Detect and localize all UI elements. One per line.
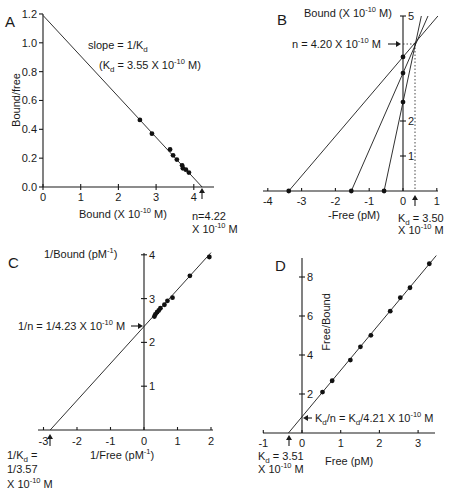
- panel-c-x-label: 1/Free (pM-1): [90, 447, 154, 461]
- x-tick-label: -3: [297, 195, 307, 207]
- data-point: [368, 333, 373, 338]
- y-tick-label: 1.2: [22, 8, 37, 20]
- figure: A 0.00.20.40.60.81.01.2 01234 Bound/free…: [0, 0, 452, 494]
- x-tick-label: -2: [72, 435, 82, 447]
- panel-d-ratio-annotation: Kd/n = Kd/4.21 X 10-10 M: [315, 410, 434, 427]
- panel-c-double-reciprocal: C 1234 -3-2-1012 1/Bound (pM-1) 1/Free (…: [7, 246, 214, 490]
- data-point: [170, 295, 175, 300]
- data-point: [398, 295, 403, 300]
- panel-b-kd-arrow-icon: [412, 195, 418, 206]
- x-tick-label: 3: [153, 191, 159, 203]
- data-point: [165, 298, 170, 303]
- data-point: [150, 131, 155, 136]
- y-tick-label: 3: [149, 293, 155, 305]
- x-tick-label: 1: [434, 195, 440, 207]
- data-point: [330, 378, 335, 383]
- panel-a-x-label: Bound (X 10-10 M): [79, 206, 167, 220]
- y-tick-label: 2: [408, 115, 414, 127]
- panel-d-kd-arrow-icon: [286, 435, 292, 446]
- y-tick-label: 0.2: [22, 152, 37, 164]
- panel-a-n-arrow-icon: [199, 188, 205, 199]
- data-point: [171, 153, 176, 158]
- panel-label-a: A: [5, 13, 15, 30]
- x-tick-label: -3: [39, 435, 49, 447]
- y-intercept-point: [401, 71, 406, 76]
- panel-a-y-ticks: 0.00.20.40.60.81.01.2: [22, 8, 43, 193]
- x-tick-label: 0: [141, 435, 147, 447]
- panel-a-y-label: Bound/free: [10, 73, 22, 127]
- x-tick-label: 2: [115, 191, 121, 203]
- data-point: [427, 261, 432, 266]
- y-tick-label: 8: [307, 271, 313, 283]
- panel-d-y-label: Free/Bound: [320, 293, 332, 350]
- data-point: [358, 344, 363, 349]
- x-tick-label: 0: [400, 195, 406, 207]
- data-point: [152, 314, 157, 319]
- x-tick-label: -1: [364, 195, 374, 207]
- panel-c-kd-units: X 10-10 M: [7, 476, 53, 490]
- x-tick-label: -1: [258, 437, 268, 449]
- panel-d-hanes-woolf: D 2468 -10123 Free/Bound Free (pM) Kd/n …: [258, 256, 436, 475]
- y-tick-label: 4: [149, 249, 155, 261]
- x-tick-label: 3: [415, 437, 421, 449]
- panel-a-kd-annotation: (Kd = 3.55 X 10-10 M): [99, 57, 201, 74]
- x-intercept-point: [349, 189, 354, 194]
- panel-c-kd-annotation: 1/Kd =: [7, 449, 37, 464]
- panel-d-kd-units: X 10-10 M: [258, 461, 304, 475]
- y-tick-label: 4: [307, 349, 313, 361]
- y-tick-label: 1: [149, 380, 155, 392]
- data-point: [388, 309, 393, 314]
- panel-b-direct-linear: B 125 -4-3-2-101 Bound (X 10-10 M) -Free…: [263, 5, 444, 236]
- x-tick-label: 4: [191, 191, 197, 203]
- data-point: [174, 157, 179, 162]
- data-point: [207, 255, 212, 260]
- data-point: [186, 170, 191, 175]
- panel-b-n-annotation: n = 4.20 X 10-10 M: [292, 36, 381, 50]
- panel-a-scatchard: A 0.00.20.40.60.81.01.2 01234 Bound/free…: [5, 8, 238, 235]
- x-tick-label: 2: [208, 435, 214, 447]
- panel-label-d: D: [275, 257, 286, 274]
- panel-c-fit-line: [50, 253, 211, 430]
- x-tick-label: 0: [40, 191, 46, 203]
- panel-c-n-arrow-icon: [131, 323, 143, 329]
- panel-b-y-label: Bound (X 10-10 M): [304, 5, 392, 19]
- panel-a-n-units: X 10-10 M: [192, 221, 238, 235]
- panel-c-n-annotation: 1/n = 1/4.23 X 10-10 M: [18, 318, 125, 332]
- data-point: [137, 118, 142, 123]
- y-intercept-point: [401, 55, 406, 60]
- data-point: [168, 147, 173, 152]
- data-point: [162, 302, 167, 307]
- panel-c-y-label: 1/Bound (pM-1): [44, 246, 117, 260]
- y-tick-label: 2: [149, 336, 155, 348]
- panel-d-x-label: Free (pM): [325, 455, 373, 467]
- x-tick-label: -2: [331, 195, 341, 207]
- data-point: [320, 390, 325, 395]
- y-tick-label: 0.6: [22, 94, 37, 106]
- panel-b-kd-units: X 10-10 M: [398, 222, 444, 236]
- x-tick-label: -1: [106, 435, 116, 447]
- x-tick-label: -4: [263, 195, 273, 207]
- data-point: [187, 273, 192, 278]
- x-tick-label: 2: [376, 437, 382, 449]
- y-tick-label: 0.8: [22, 66, 37, 78]
- x-tick-label: 1: [338, 437, 344, 449]
- y-tick-label: 5: [408, 10, 414, 22]
- panel-b-x-label: -Free (pM): [328, 209, 380, 221]
- data-point: [408, 285, 413, 290]
- y-tick-label: 2: [307, 388, 313, 400]
- data-point: [348, 358, 353, 363]
- y-tick-label: 0.4: [22, 123, 37, 135]
- panel-a-slope-annotation: slope = 1/Kd: [88, 39, 148, 54]
- x-intercept-point: [286, 189, 291, 194]
- panel-d-ratio-arrow-icon: [303, 415, 312, 421]
- y-tick-label: 1.0: [22, 37, 37, 49]
- panel-d-y-ticks: 2468: [299, 271, 313, 400]
- panel-label-c: C: [8, 254, 19, 271]
- x-tick-label: 1: [78, 191, 84, 203]
- x-tick-label: 0: [299, 437, 305, 449]
- y-tick-label: 1: [408, 150, 414, 162]
- panel-b-y-ticks: 125: [400, 10, 414, 162]
- x-tick-label: 1: [174, 435, 180, 447]
- panel-c-kd-value: 1/3.57: [7, 463, 38, 475]
- y-tick-label: 6: [307, 310, 313, 322]
